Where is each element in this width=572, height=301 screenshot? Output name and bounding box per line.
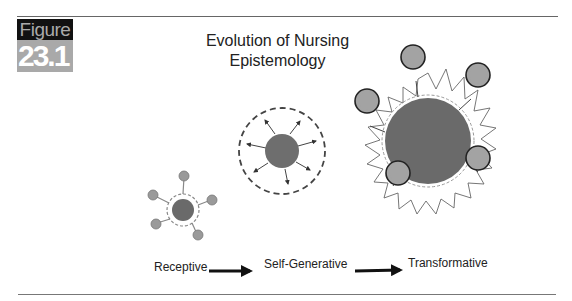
stage-label-transformative: Transformative [408, 256, 488, 270]
stage-label-self-generative: Self-Generative [264, 257, 347, 271]
bottom-rule [18, 294, 556, 295]
self-generative-diagram [239, 108, 325, 194]
stage-label-receptive: Receptive [154, 260, 207, 274]
transformative-diagram [355, 45, 496, 214]
receptive-diagram [148, 171, 217, 240]
arrow-self-generative-to-transformative [355, 270, 400, 271]
